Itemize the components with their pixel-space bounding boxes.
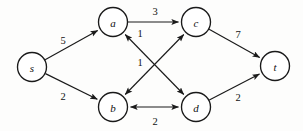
node-label-a: a [110, 17, 116, 29]
graph-svg: 52311272 sacbdt [0, 0, 303, 131]
node-label-s: s [30, 62, 34, 74]
edge-weight-s-a: 5 [60, 35, 65, 46]
node-a[interactable]: a [99, 8, 128, 37]
edge-weight-a-d: 1 [137, 28, 142, 39]
edge-weight-b-c: 1 [137, 57, 142, 68]
nodes-layer: sacbdt [18, 8, 290, 122]
diagram-canvas: 52311272 sacbdt [0, 0, 303, 131]
node-label-b: b [110, 102, 116, 114]
edge-weights-layer: 52311272 [60, 6, 240, 127]
node-d[interactable]: d [182, 93, 211, 122]
node-b[interactable]: b [99, 93, 128, 122]
edge-weight-d-t: 2 [235, 92, 240, 103]
edge-weight-s-b: 2 [60, 91, 65, 102]
node-c[interactable]: c [182, 8, 211, 37]
node-t[interactable]: t [261, 52, 290, 81]
node-label-d: d [193, 102, 199, 114]
edge-d-t [209, 74, 259, 100]
node-s[interactable]: s [18, 53, 47, 82]
edges-layer [45, 22, 260, 107]
node-label-c: c [194, 17, 199, 29]
edge-s-b [45, 74, 97, 100]
edge-s-a [45, 31, 98, 60]
edge-weight-a-c: 3 [152, 6, 157, 17]
edge-weight-b-d: 2 [152, 116, 157, 127]
edge-weight-c-t: 7 [235, 29, 240, 40]
